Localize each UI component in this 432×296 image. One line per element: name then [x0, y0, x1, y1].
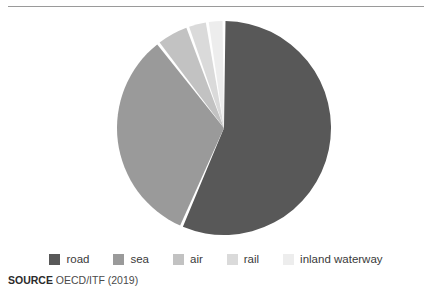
- legend-item-inland-waterway[interactable]: inland waterway: [283, 253, 382, 266]
- source-citation: OECD/ITF (2019): [56, 274, 138, 286]
- chart-plot-area: [0, 10, 432, 246]
- legend-item-air[interactable]: air: [173, 253, 203, 266]
- legend-swatch-icon: [113, 254, 124, 265]
- pie-chart-svg: [0, 10, 432, 246]
- legend-swatch-icon: [49, 254, 60, 265]
- chart-legend: roadseaairrailinland waterway: [0, 248, 432, 270]
- legend-label: road: [66, 253, 89, 266]
- legend-item-rail[interactable]: rail: [227, 253, 259, 266]
- legend-label: air: [190, 253, 203, 266]
- source-keyword: SOURCE: [8, 274, 53, 286]
- legend-swatch-icon: [283, 254, 294, 265]
- legend-label: inland waterway: [300, 253, 382, 266]
- legend-swatch-icon: [227, 254, 238, 265]
- legend-item-road[interactable]: road: [49, 253, 89, 266]
- pie-chart-figure: roadseaairrailinland waterway SOURCE OEC…: [0, 0, 432, 296]
- legend-label: rail: [244, 253, 259, 266]
- top-divider: [8, 6, 424, 7]
- legend-item-sea[interactable]: sea: [113, 253, 149, 266]
- source-note: SOURCE OECD/ITF (2019): [8, 274, 138, 287]
- legend-label: sea: [130, 253, 149, 266]
- legend-swatch-icon: [173, 254, 184, 265]
